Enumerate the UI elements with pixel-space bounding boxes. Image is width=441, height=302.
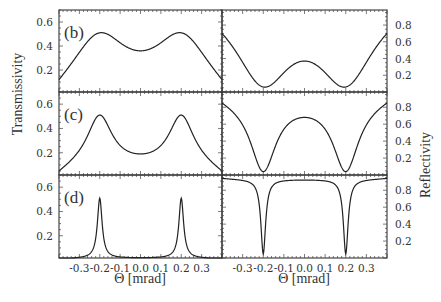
y-tick-label-right: 0.6 xyxy=(395,118,412,130)
y-tick-label-left: 0.2 xyxy=(36,64,53,76)
x-axis-title-left: Θ [mrad] xyxy=(114,271,166,286)
y-tick-label-left: 0.4 xyxy=(36,205,53,217)
y-tick-label-left: 0.4 xyxy=(36,122,53,134)
x-tick-label: -0.2 xyxy=(253,262,273,274)
y-tick-label-right: 0.6 xyxy=(395,201,412,213)
y-tick-label-right: 0.8 xyxy=(395,101,412,113)
y-tick-label-left: 0.2 xyxy=(36,230,53,242)
transmissivity-curve xyxy=(59,198,222,258)
panel-frame xyxy=(59,92,222,175)
panel-b-left: 0.20.40.6(b) xyxy=(36,10,222,92)
y-tick-label-left: 0.6 xyxy=(36,98,53,110)
y-axis-title-right: Reflectivity xyxy=(418,132,433,198)
panels-group: 0.20.40.6(b)0.20.40.60.80.20.40.6(c)0.20… xyxy=(36,10,412,274)
y-tick-label-left: 0.2 xyxy=(36,147,53,159)
y-tick-label-right: 0.2 xyxy=(395,235,412,247)
y-axis-title-left: Transmissivity xyxy=(10,53,25,136)
y-tick-label-left: 0.6 xyxy=(36,181,53,193)
reflectivity-curve xyxy=(222,103,387,172)
panel-frame xyxy=(222,175,387,258)
x-tick-label: 0.3 xyxy=(193,262,210,274)
x-tick-label: 0.2 xyxy=(173,262,190,274)
y-tick-label-right: 0.2 xyxy=(395,69,412,81)
y-tick-label-right: 0.2 xyxy=(395,152,412,164)
y-tick-label-left: 0.6 xyxy=(36,16,53,28)
panel-c-right: 0.20.40.60.8 xyxy=(222,92,412,175)
panel-d-right: 0.20.40.60.8-0.3-0.2-0.10.00.10.20.3 xyxy=(222,175,412,274)
x-tick-label: -0.3 xyxy=(69,262,89,274)
figure: 0.20.40.6(b)0.20.40.60.80.20.40.6(c)0.20… xyxy=(0,0,441,302)
transmissivity-curve xyxy=(59,115,222,171)
panel-label: (c) xyxy=(64,105,83,124)
y-tick-label-right: 0.4 xyxy=(395,53,412,65)
x-axis-title-right: Θ [mrad] xyxy=(278,271,330,286)
reflectivity-curve xyxy=(222,33,387,87)
panel-b-right: 0.20.40.60.8 xyxy=(222,10,412,92)
panel-label: (b) xyxy=(64,23,84,42)
x-tick-label: -0.2 xyxy=(90,262,110,274)
x-tick-label: -0.3 xyxy=(233,262,253,274)
y-tick-label-right: 0.6 xyxy=(395,36,412,48)
panel-frame xyxy=(222,10,387,92)
reflectivity-curve xyxy=(222,178,387,253)
panel-c-left: 0.20.40.6(c) xyxy=(36,92,222,175)
y-tick-label-right: 0.8 xyxy=(395,184,412,196)
panel-d-left: 0.20.40.6(d)-0.3-0.2-0.10.00.10.20.3 xyxy=(36,175,222,274)
x-tick-label: 0.2 xyxy=(337,262,354,274)
panel-label: (d) xyxy=(64,188,84,207)
x-tick-label: 0.3 xyxy=(358,262,375,274)
y-tick-label-left: 0.4 xyxy=(36,40,53,52)
y-tick-label-right: 0.4 xyxy=(395,135,412,147)
y-tick-label-right: 0.8 xyxy=(395,19,412,31)
y-tick-label-right: 0.4 xyxy=(395,218,412,230)
